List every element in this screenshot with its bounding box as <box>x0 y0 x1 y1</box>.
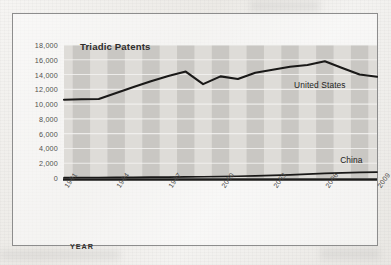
y-axis-tick-label: 6,000 <box>18 130 58 139</box>
chart-title: Triadic Patents <box>80 41 151 52</box>
series-label-china: China <box>340 155 362 165</box>
chart-frame: Triadic Patents 02,0004,0006,0008,00010,… <box>12 13 378 246</box>
y-axis-tick-label: 8,000 <box>18 115 58 124</box>
series-label-united-states: United States <box>294 80 346 90</box>
x-axis-title: YEAR <box>70 242 94 251</box>
y-axis-tick-label: 4,000 <box>18 144 58 153</box>
chart-figure: Triadic Patents 02,0004,0006,0008,00010,… <box>13 14 377 245</box>
y-axis-tick-label: 0 <box>18 174 58 183</box>
y-axis-tick-label: 10,000 <box>18 100 58 109</box>
y-axis-tick-label: 14,000 <box>18 71 58 80</box>
y-axis-tick-label: 2,000 <box>18 159 58 168</box>
y-axis-tick-label: 18,000 <box>18 41 58 50</box>
y-axis-tick-label: 12,000 <box>18 85 58 94</box>
chart-plot-svg <box>13 14 379 247</box>
y-axis-tick-label: 16,000 <box>18 56 58 65</box>
